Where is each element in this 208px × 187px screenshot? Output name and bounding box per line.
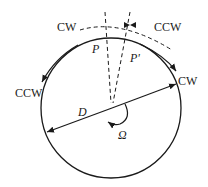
dashed-line-p: [105, 12, 111, 103]
label-cw-top-left: CW: [57, 20, 77, 34]
label-p-prime: P': [129, 51, 140, 65]
label-ccw-left: CCW: [15, 86, 43, 100]
omega-rotation-arrow: [108, 104, 128, 125]
label-ccw-top-right: CCW: [154, 20, 182, 34]
label-diameter: D: [77, 105, 87, 119]
label-cw-right: CW: [178, 74, 198, 88]
diameter-line: [112, 84, 176, 108]
arc-arrow-marker: [124, 22, 136, 28]
label-omega: Ω: [118, 128, 127, 142]
cw-right-arrow: [140, 44, 176, 71]
label-p: P: [91, 42, 100, 56]
rotation-diagram: CW CCW CCW CW P P' D Ω: [0, 0, 208, 187]
ccw-left-arrow: [42, 45, 78, 82]
